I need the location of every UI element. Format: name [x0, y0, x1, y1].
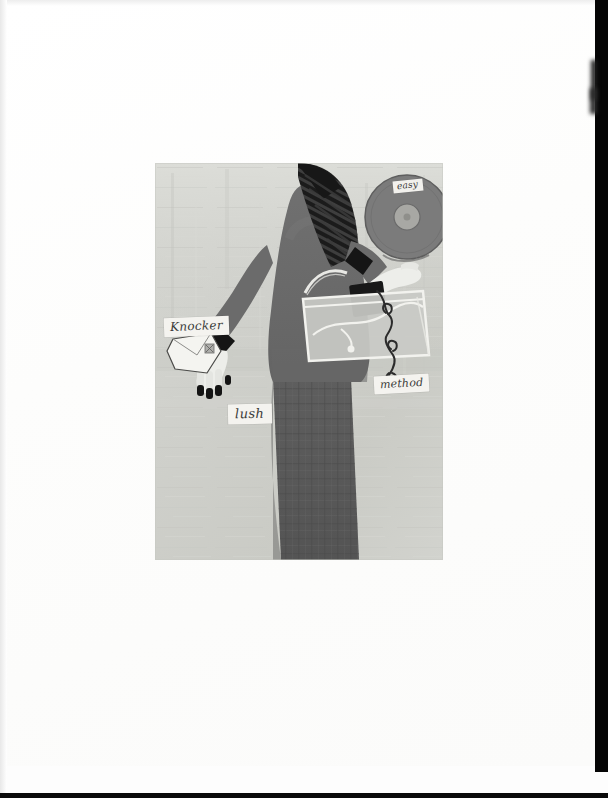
annotation-lush: lush — [228, 404, 273, 425]
scan-edge-left — [0, 0, 7, 794]
scan-edge-right — [595, 0, 608, 772]
illustration-plate — [155, 163, 443, 560]
annotation-method-text: method — [380, 377, 424, 390]
figure-skirt — [271, 378, 359, 560]
scan-edge-top — [0, 0, 600, 6]
scan-edge-bottom — [0, 793, 608, 798]
scanned-page: Knocker lush method easy — [0, 0, 608, 798]
annotation-knocker: Knocker — [164, 316, 230, 337]
annotation-knocker-text: Knocker — [170, 319, 223, 333]
annotation-method: method — [374, 374, 430, 395]
annotation-lush-text: lush — [235, 407, 264, 421]
annotation-disc-label-text: easy — [397, 180, 419, 191]
